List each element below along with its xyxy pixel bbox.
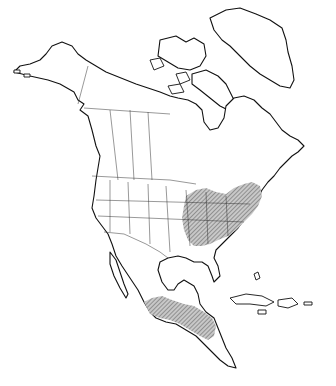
north-america-map-svg: [0, 0, 336, 386]
puerto-rico: [304, 302, 312, 305]
arctic-island-small-2: [176, 72, 190, 84]
aleutian-island-2: [24, 74, 30, 77]
arctic-islands: [158, 36, 206, 70]
arctic-island-small-3: [168, 84, 184, 94]
bahamas: [254, 272, 260, 280]
arctic-island-small-1: [150, 58, 164, 70]
cuba: [230, 294, 274, 306]
greenland: [210, 8, 294, 88]
mainland-north-america: [14, 42, 304, 368]
hispaniola: [278, 298, 298, 308]
jamaica: [258, 310, 266, 314]
range-map: [0, 0, 336, 386]
aleutian-island-1: [14, 70, 20, 73]
